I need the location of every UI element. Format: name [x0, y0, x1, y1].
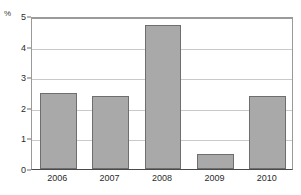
bar — [92, 96, 129, 169]
bar — [40, 93, 77, 170]
y-axis-tick-label: 4 — [21, 43, 26, 52]
x-axis-tick-label: 2009 — [204, 174, 224, 183]
bar-chart: % 012345 20062007200820092010 — [0, 0, 301, 195]
y-axis-tick-mark — [27, 78, 31, 79]
x-axis-tick-label: 2010 — [257, 174, 277, 183]
bar — [145, 25, 182, 169]
bars-layer — [32, 18, 292, 169]
y-axis-tick-label: 2 — [21, 104, 26, 113]
y-axis-tick-mark — [27, 108, 31, 109]
x-axis-tick-label: 2006 — [47, 174, 67, 183]
x-axis-tick-labels: 20062007200820092010 — [31, 172, 293, 192]
x-axis-tick-label: 2007 — [100, 174, 120, 183]
y-axis-tick-labels: 012345 — [0, 0, 30, 195]
y-axis-tick-mark — [27, 139, 31, 140]
y-axis-tick-label: 1 — [21, 135, 26, 144]
bar — [197, 154, 234, 169]
x-axis-tick-label: 2008 — [152, 174, 172, 183]
y-axis-tick-mark — [27, 47, 31, 48]
y-axis-tick-label: 0 — [21, 166, 26, 175]
bar — [249, 96, 286, 169]
y-axis-tick-mark — [27, 170, 31, 171]
plot-area — [31, 17, 293, 170]
y-axis-tick-label: 5 — [21, 13, 26, 22]
y-axis-tick-mark — [27, 17, 31, 18]
y-axis-tick-label: 3 — [21, 74, 26, 83]
